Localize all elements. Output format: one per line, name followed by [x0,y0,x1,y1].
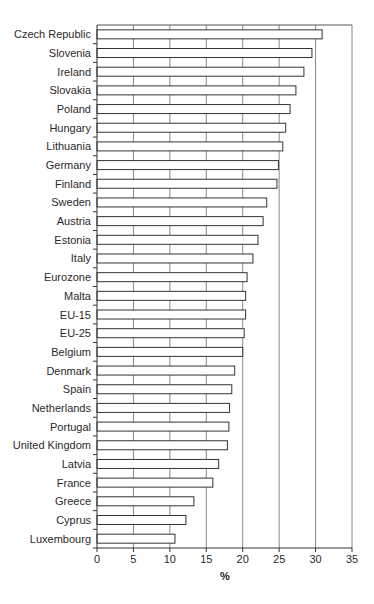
bar [97,329,244,338]
bar [97,30,322,39]
bar [97,235,258,244]
category-label: Latvia [62,458,92,470]
x-tick-label: 10 [164,553,176,565]
category-label: Estonia [54,234,92,246]
category-label: Spain [63,383,91,395]
category-label: Netherlands [32,402,92,414]
x-tick-label: 15 [200,553,212,565]
category-label: EU-25 [60,327,91,339]
category-label: Eurozone [44,271,91,283]
bar [97,273,247,282]
x-tick-label: 0 [94,553,100,565]
bar [97,105,290,114]
bar [97,49,312,58]
x-tick-label: 35 [346,553,358,565]
horizontal-bar-chart: Czech RepublicSloveniaIrelandSlovakiaPol… [0,0,374,604]
category-label: Portugal [50,421,91,433]
x-tick-labels: 05101520253035 [94,553,358,565]
x-tick-label: 30 [309,553,321,565]
x-tick-label: 25 [273,553,285,565]
bar [97,422,229,431]
category-label: Lithuania [46,140,92,152]
bar [97,291,246,300]
bar [97,385,232,394]
category-label: Austria [57,215,92,227]
bar [97,179,277,188]
x-tick-label: 20 [237,553,249,565]
category-label: Denmark [46,365,91,377]
gridlines [133,25,352,548]
bar [97,142,283,151]
category-label: Malta [64,290,92,302]
bar [97,515,186,524]
category-label: Cyprus [56,514,91,526]
axes [93,25,352,552]
bar [97,478,213,487]
category-labels: Czech RepublicSloveniaIrelandSlovakiaPol… [13,28,92,544]
category-label: Ireland [57,66,91,78]
bar [97,310,246,319]
bar [97,217,263,226]
bar [97,534,175,543]
bar [97,198,267,207]
category-label: Italy [71,252,92,264]
category-label: Czech Republic [14,28,92,40]
bar [97,86,296,95]
category-label: Hungary [49,122,91,134]
bar [97,441,227,450]
bar [97,123,286,132]
category-label: Slovenia [49,47,92,59]
category-label: Luxembourg [30,533,91,545]
bar [97,366,235,375]
category-label: Sweden [51,196,91,208]
bars [97,30,322,543]
x-axis-label: % [220,570,230,582]
x-tick-label: 5 [130,553,136,565]
bar [97,347,243,356]
bar [97,254,253,263]
category-label: Finland [55,178,91,190]
bar [97,403,230,412]
category-label: United Kingdom [13,439,91,451]
category-label: France [57,477,91,489]
category-label: EU-15 [60,309,91,321]
category-label: Greece [55,495,91,507]
bar [97,497,194,506]
category-label: Germany [46,159,92,171]
bar [97,459,219,468]
category-label: Belgium [51,346,91,358]
bar [97,67,304,76]
category-label: Poland [57,103,91,115]
bar [97,161,278,170]
category-label: Slovakia [49,84,91,96]
